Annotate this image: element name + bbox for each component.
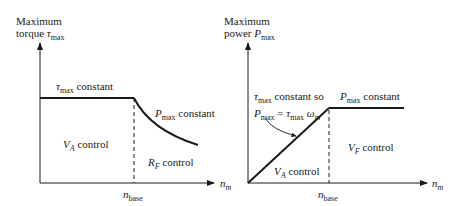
p-symbol: P (254, 27, 261, 39)
tau-subscript: max (60, 86, 74, 95)
tau-subscript: max (290, 113, 304, 122)
p-symbol: P (340, 90, 347, 102)
p-subscript: max (162, 113, 176, 122)
omega-subscript: m (314, 113, 320, 122)
y-label-line2: power Pmax (224, 27, 275, 44)
v-symbol: V (63, 138, 70, 150)
region-text: control (286, 165, 320, 177)
torque-nbase-tick-label: nbase (123, 188, 143, 205)
power-y-axis-label: Maximum power Pmax (224, 15, 275, 44)
y-label-line2: torque τmax (16, 27, 65, 44)
annotation-text: constant (74, 80, 113, 92)
v-symbol: V (274, 165, 281, 177)
annotation-text: constant so (272, 90, 324, 102)
region-text: control (160, 156, 194, 168)
equals-sign: = (275, 107, 287, 119)
region-text: control (360, 141, 394, 153)
power-nbase-tick-label: nbase (318, 188, 338, 205)
p-symbol: P (254, 107, 261, 119)
va-control-region-label: VA control (63, 138, 109, 155)
n-subscript: base (324, 194, 338, 203)
tau-max-constant-annotation: τmax constant (56, 80, 113, 97)
p-subscript: max (347, 96, 361, 105)
n-subscript: base (129, 194, 143, 203)
y-label-line1: Maximum (224, 15, 275, 27)
annotation-text: constant (361, 90, 400, 102)
y-label-prefix: power (224, 27, 254, 39)
torque-x-axis-label: nm (220, 177, 231, 194)
y-label-line1: Maximum (16, 15, 65, 27)
pmax-constant-annotation: Pmax constant (155, 107, 215, 124)
n-subscript: m (438, 183, 444, 192)
ramp-annotation: τmax constant so Pmax = τmax ωm (254, 90, 324, 124)
pmax-flat-annotation: Pmax constant (340, 90, 400, 107)
vf-control-region-label: VF control (348, 141, 394, 158)
p-subscript: max (261, 113, 275, 122)
ramp-annotation-line2: Pmax = τmax ωm (254, 107, 324, 124)
rf-control-region-label: RF control (148, 156, 194, 173)
r-symbol: R (148, 156, 155, 168)
ramp-annotation-line1: τmax constant so (254, 90, 324, 107)
v-symbol: V (348, 141, 355, 153)
power-x-axis-label: nm (432, 177, 443, 194)
n-subscript: m (226, 183, 232, 192)
tau-subscript: max (51, 33, 65, 42)
p-subscript: max (261, 33, 275, 42)
p-symbol: P (155, 107, 162, 119)
omega-symbol: ω (304, 107, 315, 119)
y-label-prefix: torque (16, 27, 47, 39)
annotation-text: constant (176, 107, 215, 119)
region-text: control (75, 138, 109, 150)
tau-subscript: max (258, 96, 272, 105)
torque-y-axis-label: Maximum torque τmax (16, 15, 65, 44)
va-control-ramp-label: VA control (274, 165, 320, 182)
